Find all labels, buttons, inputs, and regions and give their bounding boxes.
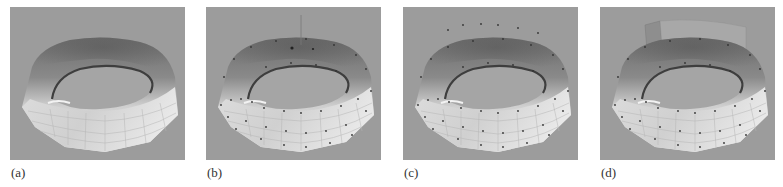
caption-d: (d) <box>601 165 616 181</box>
mesh-render <box>403 7 578 160</box>
caption-a: (a) <box>11 165 25 181</box>
panel-a <box>10 7 185 160</box>
caption-b: (b) <box>207 165 222 181</box>
mesh-render <box>10 7 185 160</box>
panel-c <box>403 7 578 160</box>
mesh-render <box>600 7 775 160</box>
caption-c: (c) <box>404 165 418 181</box>
mesh-render <box>206 7 381 160</box>
panel-d <box>600 7 775 160</box>
panel-b <box>206 7 381 160</box>
